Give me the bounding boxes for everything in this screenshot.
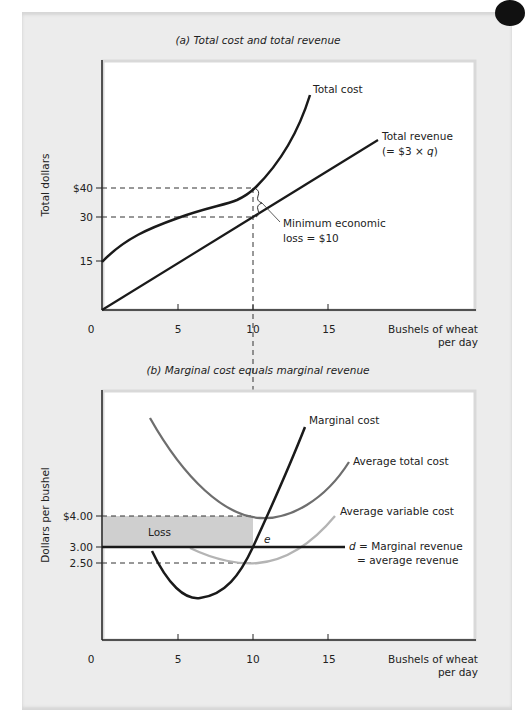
equilibrium-point-label: e [264, 533, 270, 545]
panel-b: (b) Marginal cost equals marginal revenu… [39, 364, 478, 678]
x-tick-label: 5 [175, 653, 182, 665]
y-tick-label: 15 [80, 255, 93, 267]
y-tick-label: 3.00 [70, 541, 93, 553]
min-loss-label: Minimum economic [283, 217, 386, 229]
panel-a-x-label: Bushels of wheat [388, 323, 478, 335]
y-tick-label: 2.50 [70, 557, 93, 569]
total-revenue-label: Total revenue [381, 130, 453, 142]
x-tick-label: 5 [175, 323, 182, 335]
panel-b-x-label: per day [438, 666, 478, 678]
panel-a-x-label: per day [438, 336, 478, 348]
y-tick-label: $4.00 [63, 510, 93, 522]
panel-a-title: (a) Total cost and total revenue [175, 34, 340, 46]
min-loss-label: loss = $10 [283, 232, 339, 244]
total-cost-label: Total cost [312, 83, 363, 95]
panel-a-y-label: Total dollars [39, 153, 51, 217]
total-revenue-formula: (= $3 × q) [382, 145, 438, 157]
x-tick-label: 0 [88, 323, 95, 335]
mr-label: d = Marginal revenue [349, 540, 463, 552]
loss-area [103, 516, 253, 547]
x-tick-label: 15 [322, 653, 335, 665]
panel-b-title: (b) Marginal cost equals marginal revenu… [146, 364, 369, 376]
mr-label-line2: = average revenue [357, 554, 458, 566]
panel-a-plot-area [103, 61, 475, 310]
loss-label: Loss [148, 526, 171, 538]
x-tick-label: 0 [88, 653, 95, 665]
y-tick-label: 30 [80, 211, 93, 223]
marginal-cost-label: Marginal cost [309, 414, 379, 426]
avc-label: Average variable cost [340, 505, 454, 517]
x-tick-label: 15 [322, 323, 335, 335]
atc-label: Average total cost [353, 455, 449, 467]
y-tick-label: $40 [73, 182, 93, 194]
x-tick-label: 10 [246, 323, 259, 335]
panel-b-y-label: Dollars per bushel [39, 467, 51, 563]
x-tick-label: 10 [246, 653, 259, 665]
panel-b-x-label: Bushels of wheat [388, 653, 478, 665]
